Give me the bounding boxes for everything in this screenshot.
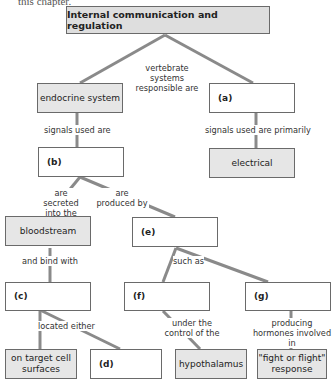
node-endocrine-system: endocrine system xyxy=(37,83,123,113)
node-hypothalamus: hypothalamus xyxy=(175,349,247,379)
node-c-blank[interactable]: (c) xyxy=(5,282,91,311)
node-electrical: electrical xyxy=(209,148,295,178)
link-signals-primarily: signals used are primarily xyxy=(205,125,311,135)
link-produced: are produced by xyxy=(95,188,149,208)
link-located: located either xyxy=(38,321,95,331)
link-signals-used: signals used are xyxy=(44,125,111,135)
node-target-cell-surfaces: on target cell surfaces xyxy=(5,349,77,379)
node-hypothalamus-text: hypothalamus xyxy=(179,359,243,370)
node-e-label: (e) xyxy=(141,227,155,238)
node-g-blank[interactable]: (g) xyxy=(245,282,331,311)
node-a-blank[interactable]: (a) xyxy=(209,83,295,113)
node-title-text: Internal communication and regulation xyxy=(67,9,269,31)
node-fight-or-flight-text: "fight or flight" response xyxy=(258,353,326,375)
link-vertebrate: vertebrate systems responsible are xyxy=(130,63,204,93)
node-f-label: (f) xyxy=(133,291,145,302)
node-c-label: (c) xyxy=(14,291,28,302)
link-such-as: such as xyxy=(173,256,204,266)
link-secreted: are secreted into the xyxy=(38,188,84,218)
node-b-label: (b) xyxy=(47,157,62,168)
node-fight-or-flight: "fight or flight" response xyxy=(257,349,327,379)
node-b-blank[interactable]: (b) xyxy=(38,147,124,177)
link-producing: producing hormones involved in xyxy=(250,318,334,348)
node-electrical-text: electrical xyxy=(231,158,272,169)
node-f-blank[interactable]: (f) xyxy=(124,282,210,311)
node-endocrine-text: endocrine system xyxy=(40,93,120,104)
node-bloodstream: bloodstream xyxy=(5,216,91,246)
node-a-label: (a) xyxy=(218,93,232,104)
node-title: Internal communication and regulation xyxy=(66,6,270,34)
node-bloodstream-text: bloodstream xyxy=(20,226,76,237)
node-g-label: (g) xyxy=(254,291,269,302)
node-d-blank[interactable]: (d) xyxy=(90,349,162,379)
link-control: under the control of the xyxy=(163,318,221,338)
node-d-label: (d) xyxy=(99,359,114,370)
node-e-blank[interactable]: (e) xyxy=(132,217,218,247)
node-target-cell-text: on target cell surfaces xyxy=(6,353,76,375)
link-bind: and bind with xyxy=(22,256,78,266)
